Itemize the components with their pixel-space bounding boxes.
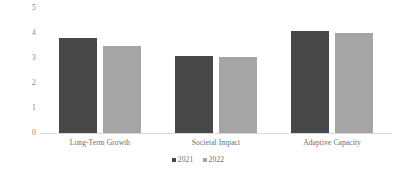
- x-axis-label-long-term-growth: Long-Term Growth: [48, 138, 152, 148]
- bar-group-adaptive-capacity: [280, 0, 384, 133]
- y-tick-label-1: 1: [14, 104, 36, 112]
- x-axis-line: [40, 133, 392, 134]
- y-axis: 5 4 3 2 1 0: [0, 0, 36, 140]
- bar-societal-impact-2021: [175, 56, 213, 134]
- x-axis-label-adaptive-capacity: Adaptive Capacity: [280, 138, 384, 148]
- legend-item-2022[interactable]: 2022: [203, 156, 225, 164]
- y-tick-label-2: 2: [14, 79, 36, 87]
- bar-adaptive-capacity-2021: [291, 31, 329, 134]
- bar-chart: 5 4 3 2 1 0: [0, 0, 396, 175]
- legend-swatch-2021-icon: [172, 158, 176, 162]
- legend-label-2021: 2021: [178, 156, 194, 164]
- bar-long-term-growth-2022: [103, 46, 141, 134]
- bar-societal-impact-2022: [219, 57, 257, 133]
- bar-group-societal-impact: [164, 0, 268, 133]
- chart-legend: 2021 2022: [0, 156, 396, 164]
- y-tick-label-3: 3: [14, 54, 36, 62]
- bar-group-long-term-growth: [48, 0, 152, 133]
- y-tick-label-4: 4: [14, 29, 36, 37]
- y-tick-label-5: 5: [14, 4, 36, 12]
- plot-area: 5 4 3 2 1 0: [0, 0, 396, 140]
- legend-item-2021[interactable]: 2021: [172, 156, 194, 164]
- bar-long-term-growth-2021: [59, 38, 97, 133]
- bar-adaptive-capacity-2022: [335, 33, 373, 133]
- legend-label-2022: 2022: [209, 156, 225, 164]
- legend-swatch-2022-icon: [203, 158, 207, 162]
- x-axis-label-societal-impact: Societal Impact: [164, 138, 268, 148]
- y-tick-label-0: 0: [14, 129, 36, 137]
